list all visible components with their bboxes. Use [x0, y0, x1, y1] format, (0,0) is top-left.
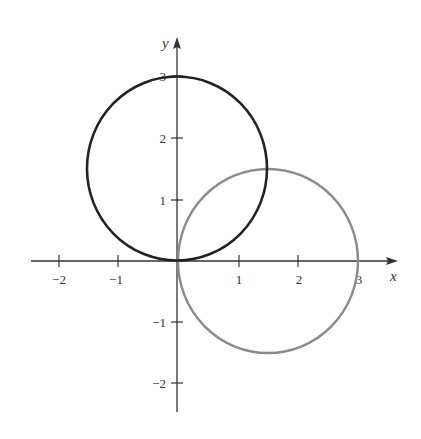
polar-plot: −2 −1 1 2 3 x 3 2 1 −1 −2 y [0, 0, 421, 439]
x-tick-label: −1 [109, 272, 123, 287]
x-axis-label: x [389, 268, 397, 284]
y-tick-label: 1 [160, 193, 167, 208]
y-axis-label: y [160, 35, 169, 51]
x-tick-label: 1 [236, 272, 243, 287]
x-tick-label: −2 [52, 272, 66, 287]
y-tick-label: 2 [160, 131, 167, 146]
x-tick-label: 2 [296, 272, 303, 287]
y-tick-label: −1 [152, 315, 166, 330]
y-tick-label: −2 [152, 376, 166, 391]
